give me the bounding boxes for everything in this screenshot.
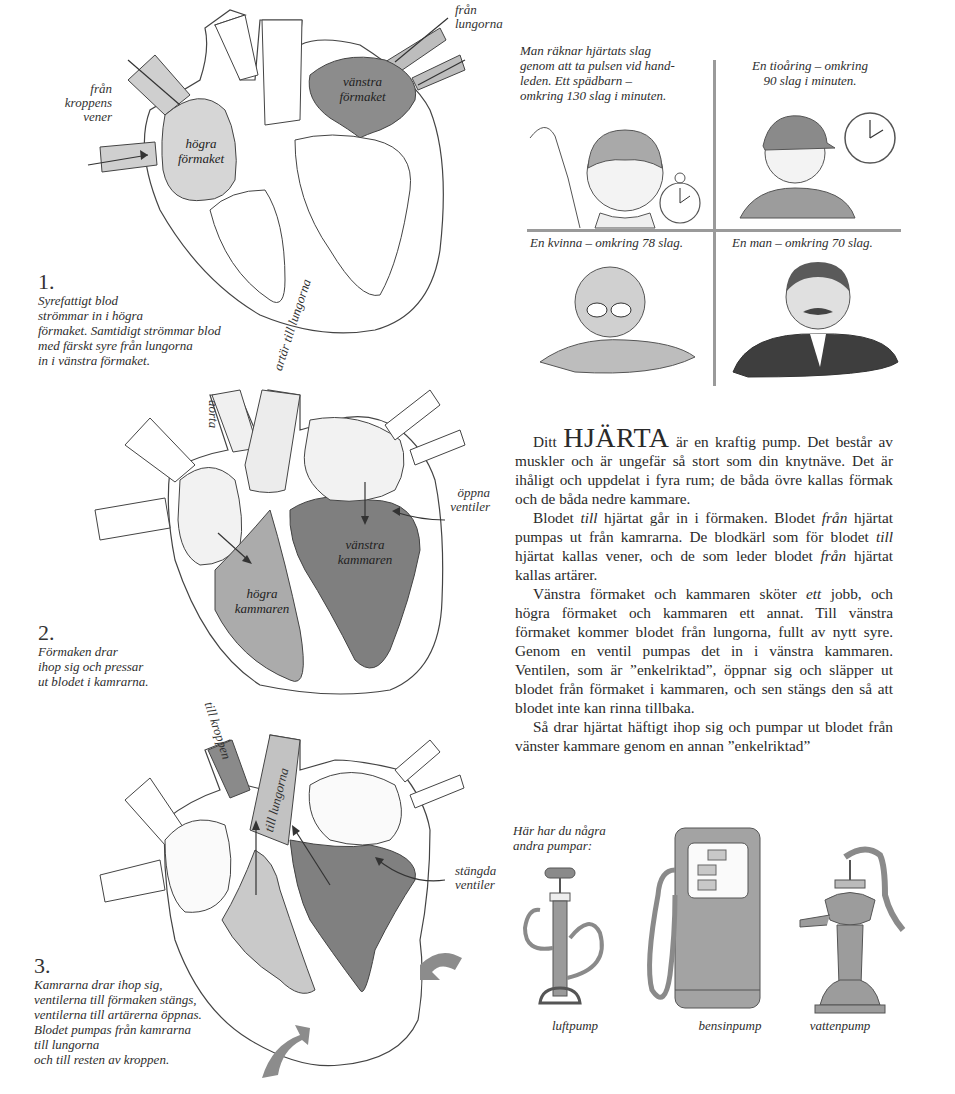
woman-illustration [535, 252, 715, 377]
article-paragraph-4: Så drar hjärtat häftigt ihop sig och pum… [515, 717, 893, 755]
caption-line: Förmaken drar [38, 644, 149, 659]
caption-line: genom att ta pulsen vid hand- [520, 58, 710, 73]
pulse-woman: En kvinna – omkring 78 slag. [530, 235, 683, 250]
label-line: högra [166, 136, 236, 151]
pumps-title: Här har du några andra pumpar: [513, 823, 606, 853]
label-line: högra [222, 586, 302, 601]
emphasis: till [580, 509, 597, 526]
emphasis: från [821, 547, 847, 564]
caption-2: 2. Förmaken drar ihop sig och pressar ut… [38, 622, 149, 689]
pulse-intro: Man räknar hjärtats slag genom att ta pu… [520, 43, 710, 103]
man-illustration [728, 252, 908, 377]
label-line: förmaket [325, 89, 400, 104]
label-line: från [40, 82, 112, 96]
caption-line: Blodet pumpas från kamrarna [34, 1022, 202, 1037]
label-line: ventiler [455, 878, 496, 892]
caption-line: och till resten av kroppen. [34, 1052, 202, 1067]
caption-line: Man räknar hjärtats slag [520, 43, 710, 58]
label-from-body-veins: från kroppens vener [40, 82, 112, 124]
article-paragraph-1: Ditt HJÄRTA är en kraftig pump. Det best… [515, 428, 893, 508]
article-paragraph-2: Blodet till hjärtat går in i förmaken. B… [515, 508, 893, 584]
caption-line: Kamrarna drar ihop sig, [34, 977, 202, 992]
caption-line: förmaket. Samtidigt strömmar blod [38, 323, 221, 338]
air-pump-illustration [520, 868, 630, 1018]
article-paragraph-3: Vänstra förmaket och kammaren sköter ett… [515, 584, 893, 717]
label-open-valves: öppna ventiler [420, 486, 490, 514]
label-left-ventricle: vänstra kammaren [325, 537, 405, 567]
label-closed-valves: stängda ventiler [455, 864, 496, 892]
article-text: Ditt HJÄRTA är en kraftig pump. Det best… [515, 428, 893, 755]
text: Vänstra förmaket och kammaren sköter [533, 585, 806, 602]
label-line: vänstra [325, 74, 400, 89]
label-left-atrium: vänstra förmaket [325, 74, 400, 104]
caption-line: ihop sig och pressar [38, 659, 149, 674]
label-line: förmaket [166, 151, 236, 166]
gas-pump-illustration [640, 825, 770, 985]
caption-1: 1. Syrefattigt blod strömmar in i högra … [38, 271, 221, 368]
pump-label-luftpump: luftpump [530, 1018, 620, 1034]
caption-line: med färskt syre från lungorna [38, 338, 221, 353]
label-right-atrium: högra förmaket [166, 136, 236, 166]
text: jobb, och högra förmaket och kammaren et… [515, 585, 893, 716]
label-right-ventricle: högra kammaren [222, 586, 302, 616]
pulse-man: En man – omkring 70 slag. [732, 235, 873, 250]
caption-line: leden. Ett spädbarn – [520, 73, 710, 88]
step-number: 2. [38, 622, 149, 644]
label-from-lungs: från lungorna [455, 3, 503, 31]
label-line: vänstra [325, 537, 405, 552]
headline-word: HJÄRTA [563, 422, 669, 453]
text: Så drar hjärtat häftigt ihop sig och pum… [515, 718, 893, 754]
caption-line: En tioåring – omkring [730, 58, 890, 73]
label-line: kroppens [40, 96, 112, 110]
text: Blodet [533, 509, 580, 526]
child-illustration [735, 108, 905, 228]
emphasis: till [876, 528, 893, 545]
label-line: stängda [455, 864, 496, 878]
caption-line: till lungorna [34, 1037, 202, 1052]
emphasis: från [822, 509, 848, 526]
caption-line: ventilerna till artärerna öppnas. [34, 1007, 202, 1022]
caption-line: in i vänstra förmaket. [38, 353, 221, 368]
caption-line: Här har du några [513, 823, 606, 838]
caption-line: omkring 130 slag i minuten. [520, 88, 710, 103]
step-number: 3. [34, 955, 202, 977]
pump-label-vattenpump: vattenpump [790, 1018, 890, 1034]
label-line: kammaren [222, 601, 302, 616]
water-pump-illustration [795, 845, 915, 995]
caption-line: andra pumpar: [513, 838, 606, 853]
label-aorta: aorta [206, 400, 220, 428]
caption-line: Syrefattigt blod [38, 293, 221, 308]
baby-illustration [520, 118, 700, 228]
emphasis: ett [806, 585, 821, 602]
caption-line: ventilerna till förmaken stängs, [34, 992, 202, 1007]
text: hjärtat går in i förmaken. Blodet [597, 509, 821, 526]
panel-horizontal-divider [527, 229, 901, 232]
step-number: 1. [38, 271, 221, 293]
label-line: öppna [420, 486, 490, 500]
label-line: ventiler [420, 500, 490, 514]
label-line: från [455, 3, 503, 17]
label-line: vener [40, 110, 112, 124]
pulse-child: En tioåring – omkring 90 slag i minuten. [730, 58, 890, 88]
label-line: lungorna [455, 17, 503, 31]
caption-line: ut blodet i kamrarna. [38, 674, 149, 689]
caption-line: 90 slag i minuten. [730, 73, 890, 88]
text: hjärtat kallas vener, och de som leder b… [515, 547, 821, 564]
caption-3: 3. Kamrarna drar ihop sig, ventilerna ti… [34, 955, 202, 1067]
lead-word: Ditt [533, 433, 557, 450]
label-line: kammaren [325, 552, 405, 567]
caption-line: strömmar in i högra [38, 308, 221, 323]
pump-label-bensinpump: bensinpump [680, 1018, 780, 1034]
